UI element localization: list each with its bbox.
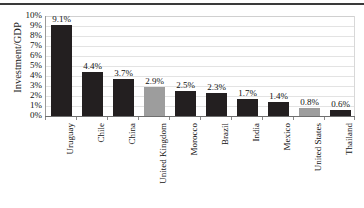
bar-chart: Investment/GDP 10%9%8%7%6%5%4%3%2%1%0% 9…	[0, 0, 364, 208]
x-axis-label-slot: United Kingdom	[138, 121, 169, 207]
y-axis-tick-label: 1%	[10, 101, 42, 110]
x-axis-tick-mark	[76, 117, 77, 120]
x-axis-tick-mark	[169, 117, 170, 120]
bar-slot: 0.6%	[325, 16, 356, 116]
x-axis-label-slot: Mexico	[262, 121, 293, 207]
bar-slot: 2.3%	[201, 16, 232, 116]
bar-value-label: 9.1%	[42, 14, 81, 24]
x-axis-label-slot: Morocco	[169, 121, 200, 207]
bar[interactable]	[175, 91, 196, 116]
bar-slot: 1.7%	[232, 16, 263, 116]
x-axis-category-labels: UruguayChileChinaUnited KingdomMoroccoBr…	[45, 121, 355, 207]
x-axis-tick-mark	[45, 117, 46, 120]
x-axis-category-label: Thailand	[344, 123, 354, 155]
y-axis-tick-label: 6%	[10, 51, 42, 60]
bar-slot: 4.4%	[77, 16, 108, 116]
x-axis-label-slot: Thailand	[324, 121, 355, 207]
x-axis-tick-mark	[324, 117, 325, 120]
figure-top-rule	[0, 3, 364, 5]
y-axis-tick-label: 2%	[10, 91, 42, 100]
y-axis-tick-label: 4%	[10, 71, 42, 80]
y-axis-tick-labels: 10%9%8%7%6%5%4%3%2%1%0%	[10, 11, 42, 117]
x-axis-category-label: Mexico	[282, 123, 292, 151]
bar-slot: 3.7%	[108, 16, 139, 116]
x-axis-tick-mark	[138, 117, 139, 120]
x-axis-tick-mark	[293, 117, 294, 120]
x-axis-label-slot: Uruguay	[45, 121, 76, 207]
x-axis-tick-mark	[354, 117, 355, 120]
x-axis-label-slot: Chile	[76, 121, 107, 207]
x-axis-category-label: India	[251, 123, 261, 142]
x-axis-category-label: China	[127, 123, 137, 145]
y-axis-tick-label: 0%	[10, 111, 42, 120]
bar-slot: 2.5%	[170, 16, 201, 116]
x-axis-category-label: United Kingdom	[158, 123, 168, 184]
bars-layer: 9.1%4.4%3.7%2.9%2.5%2.3%1.7%1.4%0.8%0.6%	[46, 16, 354, 116]
bar[interactable]	[206, 93, 227, 116]
bar[interactable]	[268, 102, 289, 116]
x-axis-label-slot: Brazil	[200, 121, 231, 207]
x-axis-tick-mark	[262, 117, 263, 120]
y-axis-tick-label: 10%	[10, 11, 42, 20]
y-axis-tick-label: 5%	[10, 61, 42, 70]
bar-slot: 2.9%	[139, 16, 170, 116]
bar[interactable]	[237, 99, 258, 116]
x-axis-category-label: Morocco	[189, 123, 199, 156]
bar-value-label: 0.6%	[321, 99, 360, 109]
x-axis-label-slot: China	[107, 121, 138, 207]
bar[interactable]	[299, 108, 320, 116]
x-axis-label-slot: India	[231, 121, 262, 207]
bar[interactable]	[51, 25, 72, 116]
plot-area: 9.1%4.4%3.7%2.9%2.5%2.3%1.7%1.4%0.8%0.6%	[45, 16, 355, 116]
bar[interactable]	[82, 72, 103, 116]
x-axis-category-label: United States	[313, 123, 323, 171]
x-axis-tick-mark	[107, 117, 108, 120]
x-axis-tick-mark	[231, 117, 232, 120]
x-axis-category-label: Uruguay	[65, 123, 75, 155]
x-axis-tick-mark	[200, 117, 201, 120]
bar[interactable]	[144, 87, 165, 116]
y-axis-tick-label: 3%	[10, 81, 42, 90]
x-axis-category-label: Chile	[96, 123, 106, 143]
x-axis-label-slot: United States	[293, 121, 324, 207]
x-axis-category-label: Brazil	[220, 123, 230, 145]
y-axis-tick-label: 9%	[10, 21, 42, 30]
bar[interactable]	[113, 79, 134, 116]
y-axis-tick-label: 8%	[10, 31, 42, 40]
y-axis-tick-label: 7%	[10, 41, 42, 50]
